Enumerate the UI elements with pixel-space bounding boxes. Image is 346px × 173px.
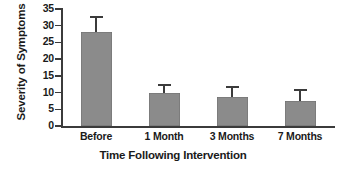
error-bar-cap [158, 84, 171, 86]
bar-chart: Severity of Symptoms 05101520253035 Befo… [0, 0, 346, 173]
y-axis-tick-label: 10 [10, 87, 54, 98]
x-axis-category-label: 7 Months [266, 130, 334, 142]
y-axis-tick [55, 92, 61, 94]
y-axis-tick-label: 30 [10, 20, 54, 31]
y-axis-tick [55, 58, 61, 60]
x-axis-category-label: 1 Month [130, 130, 198, 142]
y-axis-tick [55, 42, 61, 44]
error-bar-stem [163, 86, 165, 93]
y-axis-tick-label: 25 [10, 36, 54, 47]
x-axis-category-label: 3 Months [198, 130, 266, 142]
y-axis-tick [55, 125, 61, 127]
y-axis-tick [55, 8, 61, 10]
y-axis-tick [55, 25, 61, 27]
y-axis-tick-label: 35 [10, 3, 54, 14]
x-axis-title: Time Following Intervention [0, 149, 346, 161]
y-axis-tick-label: 0 [10, 120, 54, 131]
y-axis-tick [55, 109, 61, 111]
error-bar-cap [226, 86, 239, 88]
bar [285, 101, 316, 126]
y-axis-tick [55, 75, 61, 77]
error-bar-stem [231, 88, 233, 97]
bar [217, 97, 248, 126]
error-bar-stem [95, 18, 97, 32]
bar [149, 93, 180, 126]
y-axis-tick-label: 15 [10, 70, 54, 81]
y-axis-tick-label: 5 [10, 103, 54, 114]
x-axis-category-label: Before [62, 130, 130, 142]
bar [81, 32, 112, 126]
y-axis-tick-label: 20 [10, 53, 54, 64]
error-bar-stem [299, 91, 301, 101]
x-axis-line [61, 126, 335, 128]
error-bar-cap [294, 89, 307, 91]
plot-area [62, 9, 334, 126]
error-bar-cap [90, 16, 103, 18]
